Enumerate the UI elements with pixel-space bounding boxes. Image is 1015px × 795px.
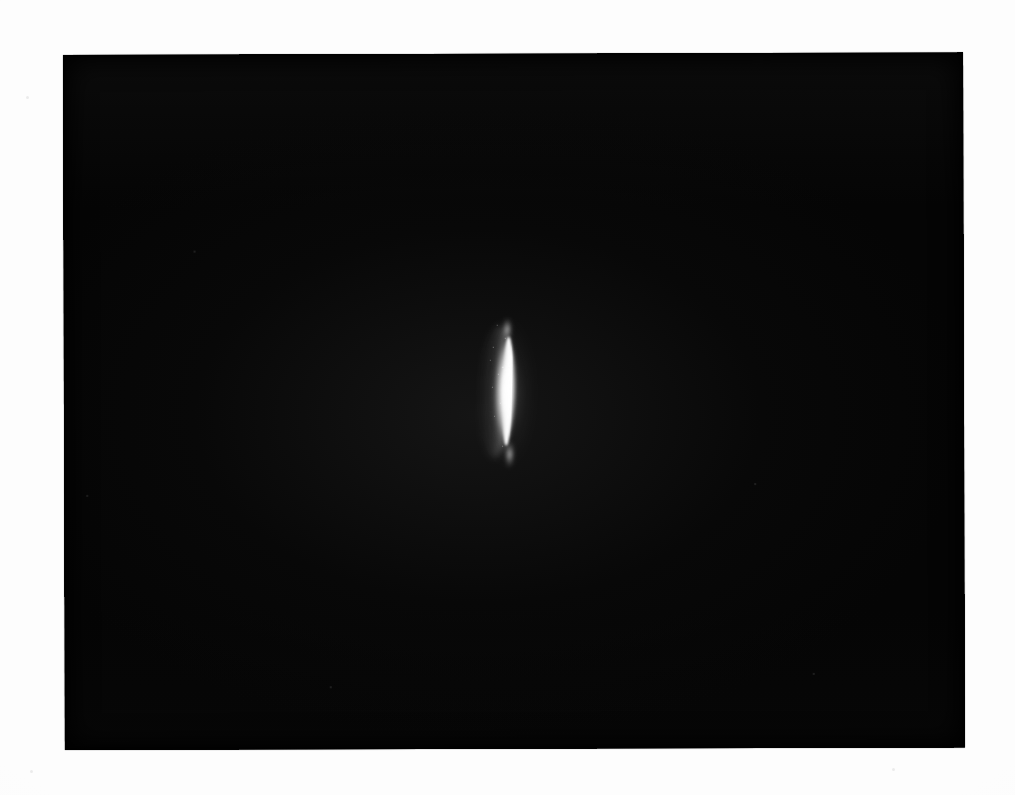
margin-speck-lower-right xyxy=(892,768,895,771)
margin-speck-upper-left xyxy=(26,96,29,99)
scanned-page xyxy=(0,0,1015,795)
plate-speck-d xyxy=(330,686,332,688)
plate-container xyxy=(63,52,965,750)
plate-speck-a xyxy=(194,251,196,253)
margin-speck-lower-left xyxy=(30,770,33,773)
plate-speck-e xyxy=(813,673,815,675)
plate-speck-b xyxy=(86,495,88,497)
plate-speck-c xyxy=(754,483,756,485)
plate-background xyxy=(63,52,965,750)
